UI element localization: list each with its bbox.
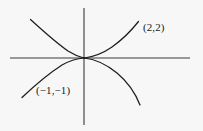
curve-diagram-svg	[0, 0, 203, 131]
point-label-lower-left: (−1,−1)	[36, 85, 70, 96]
curve-upper-left-branch	[31, 20, 85, 59]
point-label-upper-right: (2,2)	[143, 22, 165, 33]
figure-canvas: (2,2) (−1,−1)	[0, 0, 203, 131]
curve-upper-right-branch	[84, 22, 139, 59]
curve-lower-right-branch	[84, 58, 140, 105]
